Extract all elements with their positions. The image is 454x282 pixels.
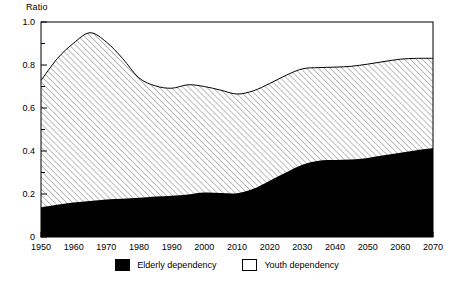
- y-axis-tick-label: 0.8: [9, 60, 35, 70]
- y-axis-tick-label: 0.2: [9, 189, 35, 199]
- x-axis-tick-label: 2070: [413, 242, 453, 252]
- legend-item-label: Elderly dependency: [137, 260, 216, 271]
- y-axis-tick-label: 0.6: [9, 103, 35, 113]
- dependency-ratio-chart: Ratio 00.20.40.60.81.0 19501960197019801…: [0, 0, 454, 282]
- y-axis-tick-label: 1.0: [9, 17, 35, 27]
- legend-item-label: Youth dependency: [264, 260, 338, 271]
- legend-item-youth-dependency: Youth dependency: [242, 259, 338, 271]
- solid-black-swatch-icon: [115, 259, 130, 271]
- chart-legend: Elderly dependency Youth dependency: [0, 259, 454, 271]
- hatched-swatch-icon: [242, 259, 257, 271]
- plot-area: [0, 0, 454, 282]
- legend-item-elderly-dependency: Elderly dependency: [115, 259, 216, 271]
- y-axis-tick-label: 0: [9, 232, 35, 242]
- y-axis-tick-label: 0.4: [9, 146, 35, 156]
